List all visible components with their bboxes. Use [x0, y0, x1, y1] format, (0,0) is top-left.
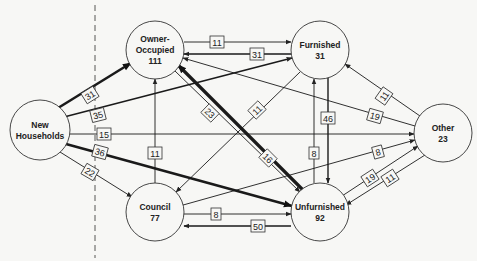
edge-label: 11	[210, 36, 224, 48]
edge-label: 15	[97, 128, 111, 140]
edge-label-value: 8	[213, 210, 218, 220]
edge-label-value: 46	[323, 114, 333, 124]
edge-label: 23	[201, 104, 219, 122]
node-unfurnished: Unfurnished92	[291, 183, 349, 241]
node-label: Unfurnished	[295, 202, 345, 212]
node-label: 77	[150, 213, 160, 223]
edge-label-value: 11	[212, 38, 221, 48]
edge-new-to-owner	[58, 63, 131, 108]
node-owner: Owner-Occupied111	[126, 21, 184, 79]
edge-label-value: 50	[253, 222, 263, 232]
edge-label-value: 15	[99, 130, 109, 140]
node-label: 23	[438, 134, 448, 144]
edge-label: 19	[367, 108, 384, 123]
edge-label: 11	[148, 147, 162, 159]
edge-label-value: 11	[150, 149, 159, 159]
node-label: 92	[315, 213, 325, 223]
edge-label: 8	[372, 145, 385, 159]
edge-label: 46	[321, 112, 335, 124]
edge-label-value: 31	[252, 50, 262, 60]
node-label: Households	[16, 131, 65, 141]
edge-label: 19	[361, 169, 379, 187]
node-label: Council	[139, 202, 170, 212]
node-other: Other23	[414, 104, 472, 162]
node-label: Furnished	[299, 40, 340, 50]
edge-label: 8	[309, 147, 319, 159]
edge-label: 31	[250, 48, 264, 60]
edge-label: 8	[211, 208, 221, 220]
node-council: Council77	[126, 183, 184, 241]
node-label: Owner-	[140, 34, 169, 44]
edge-label-value: 8	[311, 149, 316, 159]
node-label: Other	[432, 123, 455, 133]
edge-label: 36	[92, 144, 109, 159]
node-label: 31	[315, 51, 325, 61]
node-new: NewHouseholds	[10, 100, 70, 160]
edge-owner-to-unfurnished	[175, 71, 300, 192]
node-furnished: Furnished31	[291, 21, 349, 79]
edge-label: 16	[259, 149, 277, 167]
edge-label: 11	[381, 169, 399, 187]
node-label: New	[31, 120, 49, 130]
edge-label: 11	[248, 101, 266, 119]
edge-label: 11	[375, 87, 393, 105]
edge-unfurnished-to-owner	[178, 65, 303, 190]
edge-label: 50	[251, 220, 265, 232]
edge-label: 31	[81, 86, 99, 104]
node-label: 111	[148, 56, 162, 66]
node-label: Occupied	[136, 45, 175, 55]
edges-group	[58, 42, 425, 226]
edge-label: 22	[81, 163, 99, 180]
household-flow-diagram: NewHouseholdsOwner-Occupied111Furnished3…	[0, 0, 477, 261]
